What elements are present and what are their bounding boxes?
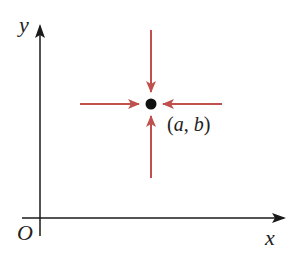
y-axis-label: y	[17, 12, 29, 37]
x-axis-label: x	[264, 225, 275, 250]
point-label-a: a	[174, 113, 184, 135]
coordinate-diagram: y x O (a, b)	[0, 0, 301, 264]
origin-label: O	[17, 220, 33, 245]
point-label-close: )	[204, 113, 211, 136]
point-label: (a, b)	[167, 113, 210, 136]
point-label-b: b	[194, 113, 204, 135]
point-marker	[146, 99, 157, 110]
point-label-sep: ,	[184, 113, 194, 135]
